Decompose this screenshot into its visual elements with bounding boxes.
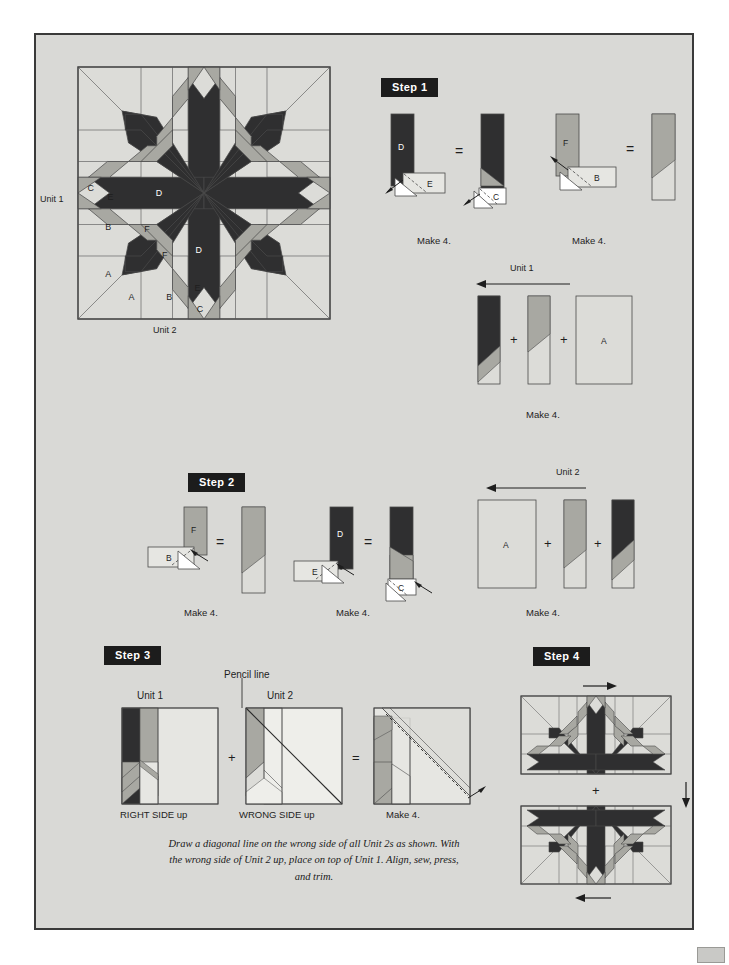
svg-text:A: A bbox=[601, 336, 607, 346]
step1-caption-1: Make 4. bbox=[417, 235, 451, 246]
piece-label-B2: B bbox=[166, 292, 172, 302]
svg-text:=: = bbox=[626, 141, 634, 157]
svg-text:A: A bbox=[503, 540, 509, 550]
piece-label-D: D bbox=[156, 188, 162, 198]
step3-note: Draw a diagonal line on the wrong side o… bbox=[164, 836, 464, 885]
svg-text:+: + bbox=[560, 332, 568, 347]
step3-diagram: + = bbox=[96, 700, 496, 820]
step3-result-block bbox=[374, 708, 486, 804]
svg-text:+: + bbox=[592, 783, 600, 798]
unit1-assembly-title: Unit 1 bbox=[510, 263, 534, 273]
step3-result-caption: Make 4. bbox=[386, 809, 420, 820]
svg-text:D: D bbox=[337, 529, 343, 539]
svg-text:B: B bbox=[594, 173, 600, 183]
svg-text:D: D bbox=[398, 142, 404, 152]
piece-label-E2: E bbox=[195, 283, 201, 293]
piece-label-A: A bbox=[105, 269, 111, 279]
unit2-assembly-caption: Make 4. bbox=[526, 607, 560, 618]
step1-caption-2: Make 4. bbox=[572, 235, 606, 246]
step-4-badge: Step 4 bbox=[533, 647, 590, 666]
svg-text:+: + bbox=[510, 332, 518, 347]
svg-text:=: = bbox=[216, 534, 224, 550]
step2-caption-1: Make 4. bbox=[184, 607, 218, 618]
svg-text:+: + bbox=[544, 536, 552, 551]
step3-unit1-caption: RIGHT SIDE up bbox=[120, 809, 187, 820]
svg-text:C: C bbox=[493, 192, 499, 202]
unit2-assembly-title: Unit 2 bbox=[556, 467, 580, 477]
svg-text:F: F bbox=[191, 525, 196, 535]
page-corner-mark bbox=[697, 947, 725, 963]
block-diagram: C E D B F F D A A B E C bbox=[78, 67, 330, 319]
unit1-assembly: + + A bbox=[440, 278, 660, 408]
svg-text:E: E bbox=[312, 567, 318, 577]
step1-group-fb: F B = bbox=[536, 110, 696, 220]
step-1-badge: Step 1 bbox=[381, 78, 438, 97]
piece-label-F2: F bbox=[162, 250, 168, 260]
piece-label-F: F bbox=[144, 224, 150, 234]
step4-diagram: + bbox=[521, 678, 706, 916]
step1-group-dec: D E = C bbox=[381, 110, 541, 220]
svg-text:+: + bbox=[594, 536, 602, 551]
step3-unit2-caption: WRONG SIDE up bbox=[239, 809, 315, 820]
piece-label-C: C bbox=[87, 183, 94, 193]
step-2-badge: Step 2 bbox=[188, 473, 245, 492]
block-unit2-label: Unit 2 bbox=[153, 325, 177, 335]
block-unit1-label: Unit 1 bbox=[40, 194, 64, 204]
instruction-sheet: C E D B F F D A A B E C Unit 1 Unit 2 St… bbox=[34, 33, 694, 930]
step4-bottom-block bbox=[521, 806, 671, 884]
svg-text:B: B bbox=[166, 553, 172, 563]
svg-text:=: = bbox=[455, 143, 463, 159]
unit2-assembly: A + + bbox=[440, 482, 670, 612]
svg-text:+: + bbox=[228, 750, 236, 765]
svg-text:E: E bbox=[427, 179, 433, 189]
unit1-block bbox=[122, 708, 218, 804]
piece-label-D2: D bbox=[196, 245, 202, 255]
piece-label-A2: A bbox=[128, 292, 134, 302]
svg-text:=: = bbox=[364, 534, 372, 550]
pencil-line-label: Pencil line bbox=[224, 669, 270, 680]
step-3-badge: Step 3 bbox=[104, 646, 161, 665]
svg-text:F: F bbox=[563, 138, 568, 148]
unit1-assembly-caption: Make 4. bbox=[526, 409, 560, 420]
step4-top-block bbox=[521, 696, 671, 774]
piece-label-E: E bbox=[107, 192, 113, 202]
step2-group-fb: F B = bbox=[154, 503, 314, 613]
svg-text:=: = bbox=[352, 750, 360, 765]
unit2-block bbox=[246, 708, 342, 804]
step2-caption-2: Make 4. bbox=[336, 607, 370, 618]
piece-label-C2: C bbox=[197, 304, 204, 314]
piece-label-B: B bbox=[105, 222, 111, 232]
